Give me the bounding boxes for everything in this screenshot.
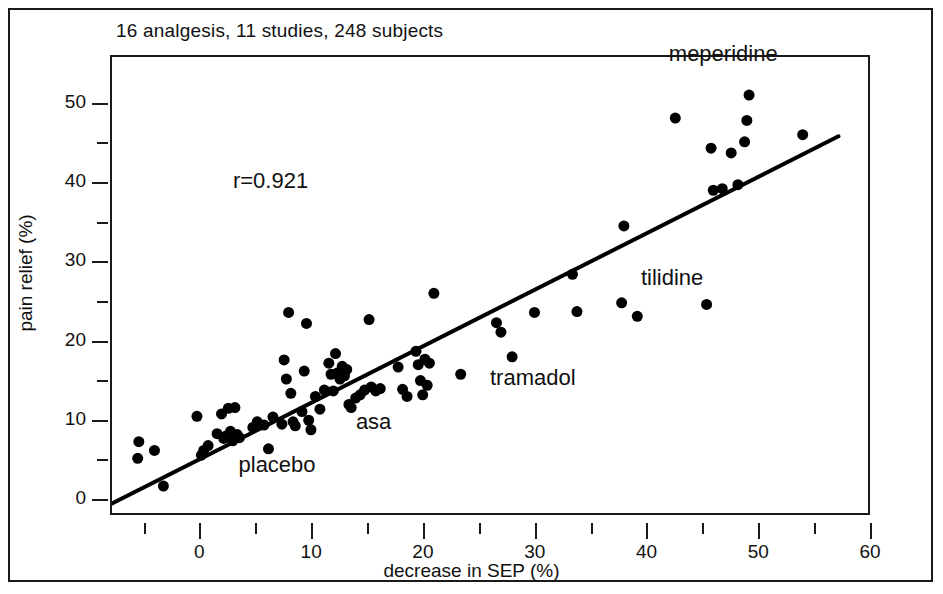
data-point <box>732 179 743 190</box>
y-tick-major <box>92 182 108 184</box>
data-point <box>259 420 270 431</box>
data-point <box>283 307 294 318</box>
data-point <box>234 432 245 443</box>
data-point <box>323 358 334 369</box>
data-point <box>567 269 578 280</box>
x-tick-minor <box>367 523 369 534</box>
data-point <box>158 481 169 492</box>
data-point <box>276 419 287 430</box>
data-point <box>328 385 339 396</box>
y-tick-major <box>92 420 108 422</box>
y-tick-minor <box>97 459 108 461</box>
y-axis-title: pain relief (%) <box>15 183 37 363</box>
x-tick-minor <box>591 523 593 534</box>
data-point <box>133 436 144 447</box>
data-point <box>402 391 413 402</box>
data-point <box>132 453 143 464</box>
data-point <box>428 288 439 299</box>
annotation-tramadol: tramadol <box>490 365 576 391</box>
data-point <box>424 358 435 369</box>
data-point <box>744 90 755 101</box>
data-point <box>229 402 240 413</box>
data-point <box>297 406 308 417</box>
data-point <box>571 306 582 317</box>
annotation-asa: asa <box>356 409 391 435</box>
y-tick-minor <box>97 142 108 144</box>
data-point <box>299 366 310 377</box>
y-tick-minor <box>97 380 108 382</box>
x-tick-major <box>646 523 648 539</box>
figure-container: 16 analgesis, 11 studies, 248 subjects 0… <box>0 0 943 594</box>
y-tick-label: 50 <box>38 91 86 113</box>
data-point <box>726 147 737 158</box>
data-point <box>632 311 643 322</box>
chart-title: 16 analgesis, 11 studies, 248 subjects <box>116 20 443 42</box>
y-tick-label: 0 <box>38 487 86 509</box>
data-point <box>422 380 433 391</box>
data-point <box>529 307 540 318</box>
data-point <box>417 389 428 400</box>
data-point <box>341 364 352 375</box>
data-point <box>364 314 375 325</box>
data-point <box>618 220 629 231</box>
y-tick-minor <box>97 222 108 224</box>
data-point <box>285 388 296 399</box>
data-point <box>290 420 301 431</box>
y-tick-label: 40 <box>38 170 86 192</box>
x-tick-major <box>311 523 313 539</box>
data-point <box>279 354 290 365</box>
x-tick-major <box>423 523 425 539</box>
plot-frame <box>110 55 870 515</box>
data-point <box>507 351 518 362</box>
plot-canvas <box>112 57 872 517</box>
y-tick-major <box>92 499 108 501</box>
data-point <box>741 115 752 126</box>
data-point <box>670 113 681 124</box>
data-point <box>305 424 316 435</box>
x-tick-minor <box>814 523 816 534</box>
x-tick-major <box>870 523 872 539</box>
data-point <box>267 412 278 423</box>
x-tick-minor <box>144 523 146 534</box>
fit-line <box>112 136 838 503</box>
annotation-tilidine: tilidine <box>641 265 703 291</box>
data-point <box>375 383 386 394</box>
data-point <box>330 348 341 359</box>
data-point <box>303 415 314 426</box>
annotation-meperidine: meperidine <box>669 41 778 67</box>
y-tick-major <box>92 261 108 263</box>
y-tick-label: 30 <box>38 249 86 271</box>
y-tick-label: 20 <box>38 329 86 351</box>
x-tick-minor <box>255 523 257 534</box>
x-tick-major <box>758 523 760 539</box>
annotation-placebo: placebo <box>239 452 316 478</box>
data-point <box>797 129 808 140</box>
data-point <box>455 369 466 380</box>
x-tick-minor <box>702 523 704 534</box>
x-axis-title: decrease in SEP (%) <box>0 560 943 582</box>
y-tick-major <box>92 341 108 343</box>
y-tick-major <box>92 103 108 105</box>
data-point <box>314 404 325 415</box>
scatter-points <box>132 90 808 492</box>
data-point <box>191 411 202 422</box>
y-tick-label: 10 <box>38 408 86 430</box>
x-tick-major <box>535 523 537 539</box>
x-tick-major <box>199 523 201 539</box>
data-point <box>706 143 717 154</box>
data-point <box>616 297 627 308</box>
correlation-label: r=0.921 <box>233 168 308 194</box>
data-point <box>411 346 422 357</box>
data-point <box>301 318 312 329</box>
data-point <box>717 183 728 194</box>
data-point <box>393 362 404 373</box>
data-point <box>149 445 160 456</box>
data-point <box>739 136 750 147</box>
data-point <box>203 440 214 451</box>
data-point <box>495 327 506 338</box>
data-point <box>491 317 502 328</box>
data-point <box>701 299 712 310</box>
data-point <box>281 374 292 385</box>
y-tick-minor <box>97 301 108 303</box>
data-point <box>196 450 207 461</box>
